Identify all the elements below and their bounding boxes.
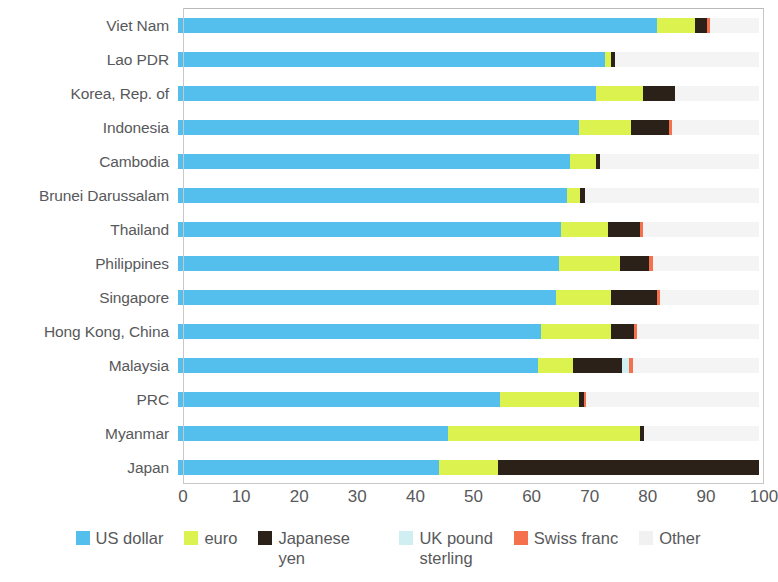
bar-segment-euro xyxy=(448,426,640,441)
bar-row: Indonesia xyxy=(0,110,776,144)
bar-segment-euro xyxy=(561,222,607,237)
bar-segment-japanese-yen xyxy=(695,18,707,33)
stacked-bar xyxy=(178,154,759,169)
bar-segment-euro xyxy=(579,120,631,135)
bar-segment-other xyxy=(643,222,759,237)
bar-segment-other xyxy=(672,120,759,135)
bar-segment-other xyxy=(710,18,759,33)
legend-item[interactable]: euro xyxy=(184,528,237,548)
x-axis-tick-label: 70 xyxy=(580,486,599,508)
x-axis-tick-label: 60 xyxy=(522,486,541,508)
bar-segment-us-dollar xyxy=(178,120,579,135)
legend-swatch-icon xyxy=(639,531,653,545)
bar-segment-us-dollar xyxy=(178,222,561,237)
stacked-bar xyxy=(178,290,759,305)
bar-segment-us-dollar xyxy=(178,256,559,271)
legend-swatch-icon xyxy=(184,531,198,545)
legend-label: Japanese yen xyxy=(278,528,378,568)
bar-segment-other xyxy=(586,392,759,407)
x-axis-tick-label: 80 xyxy=(638,486,657,508)
stacked-bar xyxy=(178,256,759,271)
bar-segment-other xyxy=(600,154,759,169)
x-axis-tick-label: 10 xyxy=(232,486,251,508)
category-label: Cambodia xyxy=(0,153,178,170)
legend-swatch-icon xyxy=(399,531,413,545)
bar-segment-other xyxy=(660,290,759,305)
bar-row: Malaysia xyxy=(0,348,776,382)
bar-row: Viet Nam xyxy=(0,8,776,42)
legend-label: UK pound sterling xyxy=(419,528,492,568)
stacked-bar xyxy=(178,52,759,67)
bar-row: Myanmar xyxy=(0,416,776,450)
bar-segment-euro xyxy=(556,290,611,305)
bar-row: PRC xyxy=(0,382,776,416)
bar-segment-us-dollar xyxy=(178,392,500,407)
stacked-bar xyxy=(178,392,759,407)
bar-row: Philippines xyxy=(0,246,776,280)
category-label: Myanmar xyxy=(0,425,178,442)
category-label: Brunei Darussalam xyxy=(0,187,178,204)
chart-legend: US dollareuroJapanese yenUK pound sterli… xyxy=(0,528,776,568)
bar-row: Thailand xyxy=(0,212,776,246)
bar-segment-euro xyxy=(657,18,695,33)
bar-row: Cambodia xyxy=(0,144,776,178)
bar-segment-us-dollar xyxy=(178,460,439,475)
legend-label: Swiss franc xyxy=(534,528,618,548)
stacked-bar xyxy=(178,188,759,203)
stacked-bar xyxy=(178,120,759,135)
bar-segment-us-dollar xyxy=(178,324,541,339)
x-axis-tick-label: 0 xyxy=(178,486,187,508)
stacked-bar xyxy=(178,426,759,441)
bar-segment-us-dollar xyxy=(178,358,538,373)
bar-segment-us-dollar xyxy=(178,290,556,305)
stacked-bar xyxy=(178,358,759,373)
category-label: Malaysia xyxy=(0,357,178,374)
bar-segment-other xyxy=(637,324,759,339)
category-label: Hong Kong, China xyxy=(0,323,178,340)
bar-segment-japanese-yen xyxy=(611,290,657,305)
category-label: Thailand xyxy=(0,221,178,238)
legend-item[interactable]: Japanese yen xyxy=(258,528,378,568)
bar-segment-japanese-yen xyxy=(498,460,759,475)
legend-label: US dollar xyxy=(96,528,164,548)
bar-segment-euro xyxy=(559,256,620,271)
bar-segment-euro xyxy=(500,392,578,407)
x-axis-tick-label: 90 xyxy=(696,486,715,508)
bar-segment-japanese-yen xyxy=(608,222,640,237)
legend-item[interactable]: Other xyxy=(639,528,700,548)
stacked-bar xyxy=(178,324,759,339)
category-label: PRC xyxy=(0,391,178,408)
bar-segment-other xyxy=(633,358,759,373)
legend-swatch-icon xyxy=(514,531,528,545)
bar-segment-uk-pound-sterling xyxy=(622,358,629,373)
category-label: Philippines xyxy=(0,255,178,272)
bar-segment-japanese-yen xyxy=(631,120,669,135)
bar-segment-other xyxy=(615,52,759,67)
category-label: Viet Nam xyxy=(0,17,178,34)
category-label: Indonesia xyxy=(0,119,178,136)
bar-segment-euro xyxy=(541,324,611,339)
bar-segment-us-dollar xyxy=(178,18,657,33)
bar-rows: Viet NamLao PDRKorea, Rep. ofIndonesiaCa… xyxy=(0,8,776,484)
bar-segment-euro xyxy=(538,358,573,373)
legend-label: Other xyxy=(659,528,700,548)
bar-segment-japanese-yen xyxy=(643,86,675,101)
bar-segment-euro xyxy=(567,188,580,203)
legend-item[interactable]: US dollar xyxy=(76,528,164,548)
bar-row: Korea, Rep. of xyxy=(0,76,776,110)
category-label: Singapore xyxy=(0,289,178,306)
legend-swatch-icon xyxy=(258,531,272,545)
bar-segment-japanese-yen xyxy=(620,256,649,271)
x-axis: 0102030405060708090100 xyxy=(183,486,764,512)
category-label: Korea, Rep. of xyxy=(0,85,178,102)
bar-row: Hong Kong, China xyxy=(0,314,776,348)
bar-segment-euro xyxy=(570,154,596,169)
legend-item[interactable]: UK pound sterling xyxy=(399,528,492,568)
bar-row: Singapore xyxy=(0,280,776,314)
legend-label: euro xyxy=(204,528,237,548)
category-label: Japan xyxy=(0,459,178,476)
x-axis-tick-label: 20 xyxy=(290,486,309,508)
legend-item[interactable]: Swiss franc xyxy=(514,528,618,548)
stacked-bar xyxy=(178,222,759,237)
